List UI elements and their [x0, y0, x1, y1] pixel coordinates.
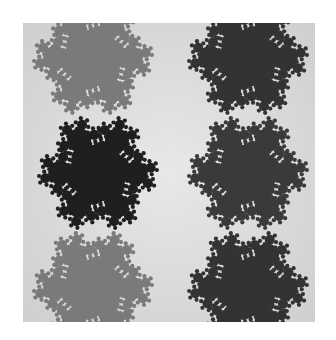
fractal-canvas	[23, 23, 315, 322]
fractal-image	[23, 23, 315, 322]
